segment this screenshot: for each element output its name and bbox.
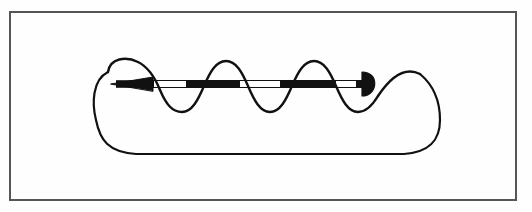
figure-canvas [0,0,532,212]
arrow-shaft-fill-2 [186,80,240,88]
figure-root: Helical coil with axial double-headed ve… [0,0,532,212]
arrow-shaft-fill-3 [280,80,336,88]
arrowhead-neck [356,80,364,88]
paper-background [0,0,532,212]
